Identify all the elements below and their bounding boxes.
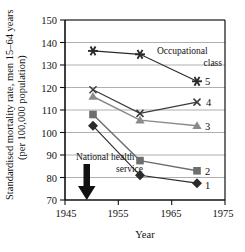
y-axis-title-line2: (per 100,000 population)	[16, 55, 28, 160]
legend-title-line1: Occupational	[157, 46, 208, 56]
series-3-label: 3	[205, 121, 210, 132]
ytick-label-70: 70	[47, 195, 58, 206]
chart-figure: 150 140 130 120 110 100 90 80 70 1945 19…	[0, 0, 245, 252]
series-5-label: 5	[205, 76, 210, 87]
ytick-label-90: 90	[47, 150, 58, 161]
ytick-label-150: 150	[41, 15, 57, 26]
legend-title-line2: class	[204, 58, 223, 68]
xtick-label-1965: 1965	[161, 208, 182, 219]
xtick-label-1975: 1975	[213, 208, 234, 219]
ytick-label-120: 120	[41, 83, 57, 94]
y-axis-tick-labels: 150 140 130 120 110 100 90 80 70	[41, 15, 57, 206]
ytick-label-140: 140	[41, 38, 57, 49]
annotation-line2: service	[116, 164, 143, 174]
series-2-label: 2	[205, 166, 210, 177]
ytick-label-100: 100	[41, 128, 57, 139]
xtick-label-1955: 1955	[108, 208, 129, 219]
ytick-label-80: 80	[47, 173, 58, 184]
x-axis-title: Year	[135, 229, 155, 240]
series-4-label: 4	[206, 97, 212, 108]
series-2-point-1951	[89, 111, 97, 119]
annotation-line1: National health	[76, 152, 135, 162]
xtick-label-1945: 1945	[56, 208, 77, 219]
x-axis-tick-labels: 1945 1955 1965 1975	[56, 208, 234, 219]
ytick-label-130: 130	[41, 60, 57, 71]
ytick-label-110: 110	[42, 105, 57, 116]
y-axis-title-line1: Standardised mortality rate, men 15–64 y…	[4, 9, 15, 200]
series-2-point-1971	[193, 167, 201, 175]
series-1-label: 1	[205, 180, 210, 191]
y-axis-title: Standardised mortality rate, men 15–64 y…	[4, 9, 28, 200]
mortality-line-chart: 150 140 130 120 110 100 90 80 70 1945 19…	[0, 0, 245, 252]
